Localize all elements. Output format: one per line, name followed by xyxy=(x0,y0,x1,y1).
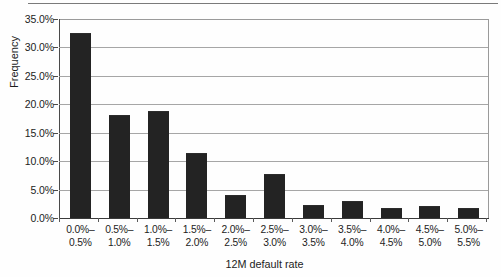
x-axis-tick-label-line: 4.5%– xyxy=(410,224,449,237)
plot-frame-right xyxy=(488,19,489,219)
x-axis-tick-label: 1.5%–2.0% xyxy=(177,224,216,249)
x-axis-tick-label: 1.0%–1.5% xyxy=(139,224,178,249)
x-axis-tick-labels: 0.0%–0.5%0.5%–1.0%1.0%–1.5%1.5%–2.0%2.0%… xyxy=(59,224,489,258)
page-divider-rule xyxy=(28,3,498,4)
x-axis-tick xyxy=(137,218,138,222)
y-axis-tick-label: 15.0% xyxy=(25,127,54,139)
bar xyxy=(225,195,246,218)
x-axis-tick-label-line: 1.0%– xyxy=(139,224,178,237)
x-axis-tick-label-line: 5.5% xyxy=(449,237,488,250)
x-axis-tick xyxy=(331,218,332,222)
y-axis-tick-label: 0.0% xyxy=(30,212,54,224)
y-axis-tick xyxy=(53,104,58,105)
histogram-figure: Frequency 0.0%5.0%10.0%15.0%20.0%25.0%30… xyxy=(0,0,501,277)
bar xyxy=(148,111,169,218)
y-axis-tick xyxy=(53,161,58,162)
x-axis-tick-label-line: 0.5% xyxy=(61,237,100,250)
x-axis-tick-label-line: 4.0% xyxy=(333,237,372,250)
x-axis-tick-label: 2.0%–2.5% xyxy=(216,224,255,249)
x-axis-tick-label-line: 1.5% xyxy=(139,237,178,250)
x-axis-tick-label: 3.5%–4.0% xyxy=(333,224,372,249)
x-axis-tick-label: 4.5%–5.0% xyxy=(410,224,449,249)
y-axis-tick xyxy=(53,76,58,77)
x-axis-title-text: 12M default rate xyxy=(197,258,303,270)
y-axis-tick-label: 5.0% xyxy=(30,184,54,196)
y-axis-tick xyxy=(53,47,58,48)
y-axis-tick xyxy=(53,133,58,134)
x-axis-tick-label-line: 2.0% xyxy=(177,237,216,250)
bar xyxy=(186,153,207,218)
bar xyxy=(419,206,440,218)
x-axis-tick-label: 3.0%–3.5% xyxy=(294,224,333,249)
x-axis-tick xyxy=(98,218,99,222)
bar xyxy=(342,201,363,218)
y-axis-tick-labels: 0.0%5.0%10.0%15.0%20.0%25.0%30.0%35.0% xyxy=(0,0,54,277)
x-axis-tick-label-line: 2.5%– xyxy=(255,224,294,237)
x-axis-ticks xyxy=(59,218,489,222)
y-axis-tick xyxy=(53,19,58,20)
bar xyxy=(381,208,402,218)
x-axis-title: 12M default rate xyxy=(0,258,501,270)
x-axis-tick xyxy=(292,218,293,222)
y-axis-tick xyxy=(53,218,58,219)
x-axis-tick-label-line: 0.0%– xyxy=(61,224,100,237)
y-axis-tick-label: 10.0% xyxy=(25,155,54,167)
x-axis-tick xyxy=(59,218,60,222)
x-axis-tick xyxy=(253,218,254,222)
y-axis-tick-label: 20.0% xyxy=(25,98,54,110)
bar xyxy=(303,205,324,218)
bar xyxy=(264,174,285,218)
x-axis-tick xyxy=(447,218,448,222)
x-axis-tick-label: 0.0%–0.5% xyxy=(61,224,100,249)
x-axis-tick-label-line: 4.5% xyxy=(372,237,411,250)
x-axis-tick-label-line: 5.0% xyxy=(410,237,449,250)
y-axis-tick-label: 35.0% xyxy=(25,13,54,25)
y-axis-tick-label: 25.0% xyxy=(25,70,54,82)
x-axis-tick-label: 4.0%–4.5% xyxy=(372,224,411,249)
bar-series xyxy=(59,19,488,218)
bar xyxy=(70,33,91,218)
x-axis-tick xyxy=(175,218,176,222)
bar xyxy=(458,208,479,218)
x-axis-tick-label: 2.5%–3.0% xyxy=(255,224,294,249)
y-axis-tick-label: 30.0% xyxy=(25,41,54,53)
x-axis-tick-label-line: 2.0%– xyxy=(216,224,255,237)
x-axis-tick-label-line: 2.5% xyxy=(216,237,255,250)
x-axis-tick-label-line: 4.0%– xyxy=(372,224,411,237)
x-axis-tick-label: 5.0%–5.5% xyxy=(449,224,488,249)
bar xyxy=(109,115,130,218)
x-axis-tick xyxy=(370,218,371,222)
x-axis-tick-label-line: 5.0%– xyxy=(449,224,488,237)
x-axis-tick xyxy=(486,218,487,222)
x-axis-tick-label-line: 3.0%– xyxy=(294,224,333,237)
x-axis-tick xyxy=(214,218,215,222)
y-axis-tick xyxy=(53,190,58,191)
x-axis-tick-label-line: 3.0% xyxy=(255,237,294,250)
x-axis-tick-label-line: 3.5% xyxy=(294,237,333,250)
x-axis-tick-label: 0.5%–1.0% xyxy=(100,224,139,249)
x-axis-tick-label-line: 0.5%– xyxy=(100,224,139,237)
x-axis-tick-label-line: 1.0% xyxy=(100,237,139,250)
x-axis-tick xyxy=(408,218,409,222)
x-axis-tick-label-line: 1.5%– xyxy=(177,224,216,237)
x-axis-tick-label-line: 3.5%– xyxy=(333,224,372,237)
